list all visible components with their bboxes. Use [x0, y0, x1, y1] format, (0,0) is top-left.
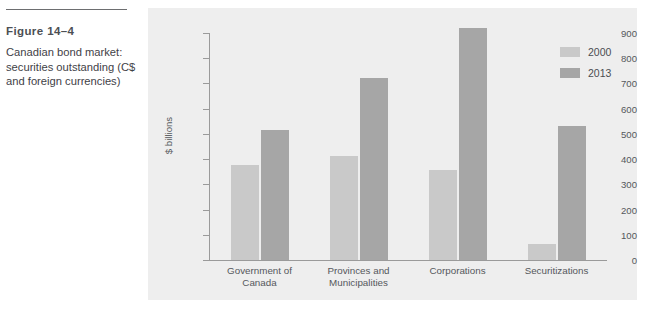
- chart-panel: $ billions 0100200300400500600700800900 …: [148, 8, 637, 300]
- y-axis-tick-label: 600: [589, 103, 637, 114]
- legend-item-2000: 2000: [560, 46, 611, 58]
- bar-2000-2: [330, 156, 358, 260]
- x-axis-label-3: Corporations: [408, 265, 507, 277]
- chart-legend: 20002013: [560, 46, 611, 88]
- bar-2013-1: [261, 130, 289, 260]
- x-axis-label-4: Securitizations: [507, 265, 606, 277]
- y-axis-tick-mark: [203, 58, 209, 59]
- y-axis-tick-label: 200: [589, 204, 637, 215]
- x-axis-label-2: Provinces andMunicipalities: [309, 265, 408, 289]
- y-axis-tick-label: 900: [589, 28, 637, 39]
- bar-2000-3: [429, 170, 457, 260]
- legend-item-2013: 2013: [560, 67, 611, 79]
- y-axis-tick-mark: [203, 235, 209, 236]
- y-axis-title: $ billions: [163, 106, 174, 166]
- y-axis-tick-mark: [203, 83, 209, 84]
- bar-2000-1: [231, 165, 259, 260]
- bar-2013-3: [459, 28, 487, 260]
- y-axis-tick-mark: [203, 33, 209, 34]
- figure-caption-text: Canadian bond market: securities outstan…: [6, 45, 138, 89]
- bar-2013-4: [558, 126, 586, 260]
- y-axis-tick-mark: [203, 134, 209, 135]
- y-axis-tick-mark: [203, 109, 209, 110]
- x-axis-label-1: Government ofCanada: [210, 265, 309, 289]
- y-axis-tick-mark: [203, 184, 209, 185]
- y-axis-line: [209, 33, 210, 261]
- y-axis-tick-label: 100: [589, 229, 637, 240]
- figure-caption-block: Figure 14–4 Canadian bond market: securi…: [6, 10, 138, 89]
- y-axis-tick-mark: [203, 260, 209, 261]
- legend-swatch-2013: [560, 68, 580, 78]
- legend-label-2013: 2013: [588, 67, 611, 79]
- y-axis-tick-label: 300: [589, 179, 637, 190]
- y-axis-tick-label: 0: [589, 255, 637, 266]
- legend-swatch-2000: [560, 47, 580, 57]
- y-axis-tick-mark: [203, 159, 209, 160]
- bar-2000-4: [528, 244, 556, 260]
- legend-label-2000: 2000: [588, 46, 611, 58]
- bar-2013-2: [360, 78, 388, 260]
- y-axis-tick-label: 400: [589, 154, 637, 165]
- y-axis-tick-mark: [203, 210, 209, 211]
- y-axis-tick-label: 500: [589, 128, 637, 139]
- x-axis-line: [209, 260, 607, 261]
- figure-number: Figure 14–4: [6, 24, 138, 38]
